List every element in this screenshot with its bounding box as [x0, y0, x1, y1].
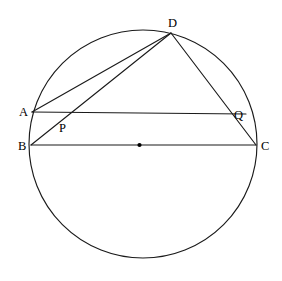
- point-label-Q: Q: [234, 108, 243, 122]
- circle-center-dot: [137, 143, 141, 147]
- segment-AD: [32, 33, 171, 112]
- point-label-A: A: [19, 105, 28, 119]
- geometry-canvas: A B C D P Q: [0, 0, 282, 281]
- point-label-P: P: [59, 121, 66, 135]
- point-label-B: B: [18, 139, 26, 153]
- segment-AQ: [32, 112, 246, 114]
- point-label-D: D: [168, 16, 177, 30]
- geometry-diagram: A B C D P Q: [0, 0, 282, 281]
- point-label-C: C: [261, 139, 269, 153]
- main-circle: [29, 30, 257, 258]
- segment-BD: [31, 33, 171, 145]
